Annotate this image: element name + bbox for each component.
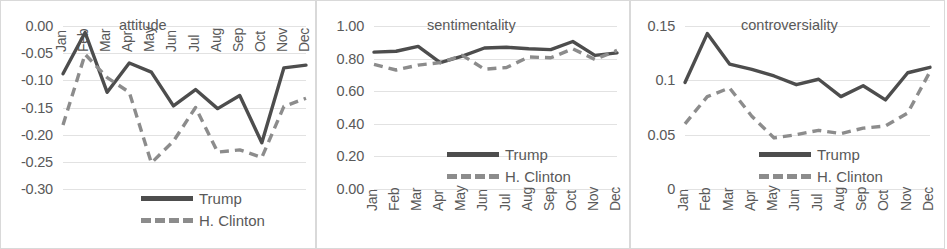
- panel-attitude: 0.00-0.05-0.10-0.15-0.20-0.25-0.30 attit…: [0, 0, 316, 249]
- line-series-clinton: [63, 54, 306, 163]
- panel-sentimentality: 1.000.800.600.400.200.00 sentimentality …: [316, 0, 630, 249]
- series-layer: [317, 1, 631, 249]
- series-layer: [1, 1, 317, 249]
- multi-panel-line-chart-figure: 0.00-0.05-0.10-0.15-0.20-0.25-0.30 attit…: [0, 0, 947, 249]
- series-layer: [631, 1, 946, 249]
- line-series-clinton: [374, 49, 617, 70]
- panel-controversiality: 0.150.10.050 controversiality Trump H. C…: [630, 0, 945, 249]
